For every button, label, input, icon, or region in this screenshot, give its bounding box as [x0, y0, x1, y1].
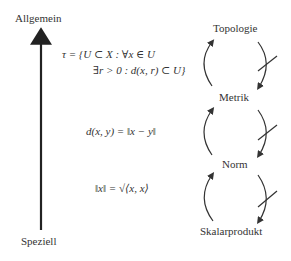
node-skalarprodukt: Skalarprodukt	[200, 225, 262, 237]
arrow-norm-to-skalarprodukt-crossed	[258, 175, 277, 221]
axis-label-special: Speziell	[21, 235, 56, 247]
arrow-metrik-to-topologie	[204, 42, 212, 86]
formula-topology-line1: τ = {U ⊂ X : ∀x ∈ U	[62, 48, 155, 61]
arrow-skalarprodukt-to-norm	[204, 175, 213, 221]
arrow-metrik-to-norm-crossed	[258, 110, 277, 155]
arrow-norm-to-metrik	[204, 110, 212, 155]
node-norm: Norm	[222, 158, 248, 170]
axis-label-general: Allgemein	[15, 12, 61, 24]
formula-norm: ‖x‖ = √⟨x, x⟩	[95, 182, 149, 195]
node-topologie: Topologie	[213, 22, 257, 34]
formula-topology-line2: ∃r > 0 : d(x, r) ⊂ U}	[93, 64, 185, 77]
formula-metric: d(x, y) = ‖x − y‖	[86, 125, 156, 137]
node-metrik: Metrik	[219, 91, 249, 103]
arrow-topologie-to-metrik-crossed	[258, 42, 277, 87]
